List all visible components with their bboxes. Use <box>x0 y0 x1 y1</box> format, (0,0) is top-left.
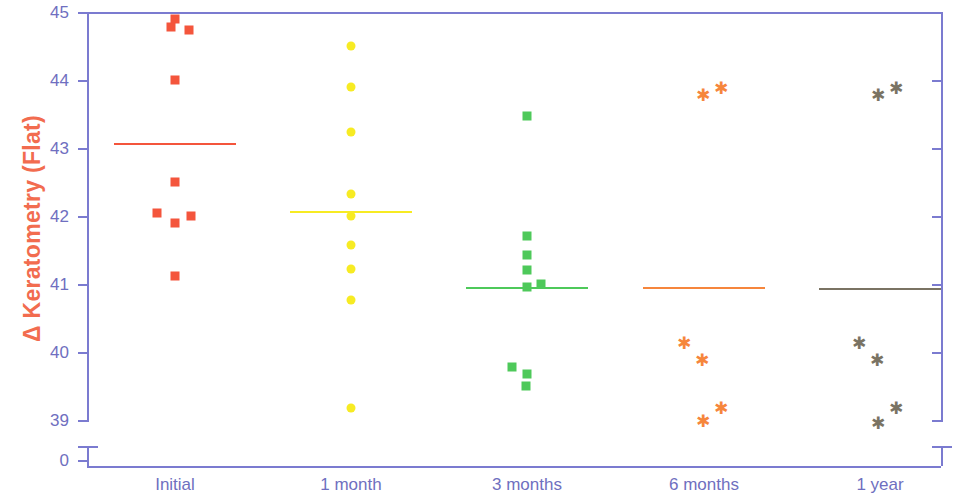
data-point-6-months-3: ✱ <box>695 353 709 370</box>
data-point-Initial-2 <box>185 26 194 35</box>
data-point-3-months-4 <box>537 280 546 289</box>
data-point-3-months-3 <box>523 265 532 274</box>
data-point-1-year-1: ✱ <box>889 81 903 98</box>
y-axis-break-stub-right-cap <box>932 446 952 448</box>
y-tick-40 <box>78 352 89 354</box>
data-point-6-months-1: ✱ <box>714 81 728 98</box>
data-point-1-year-4: ✱ <box>889 400 903 417</box>
y-tick-label-40: 40 <box>33 343 69 363</box>
y-tick-right-39 <box>932 420 943 422</box>
data-point-3-months-1 <box>523 232 532 241</box>
data-point-1-month-3 <box>347 190 356 199</box>
y-tick-39 <box>78 420 89 422</box>
mean-line-6-months <box>643 287 765 289</box>
data-point-Initial-7 <box>187 212 196 221</box>
data-point-1-month-0 <box>347 42 356 51</box>
data-point-3-months-8 <box>522 382 531 391</box>
y-tick-label-0: 0 <box>33 451 69 471</box>
data-point-3-months-6 <box>508 362 517 371</box>
x-tick-label-Initial: Initial <box>155 475 195 495</box>
data-point-1-month-7 <box>347 295 356 304</box>
y-tick-right-41 <box>932 284 943 286</box>
data-point-3-months-2 <box>523 251 532 260</box>
data-point-3-months-5 <box>523 283 532 292</box>
x-tick-label-1-month: 1 month <box>320 475 381 495</box>
plot-bottom-border <box>87 466 941 468</box>
data-point-1-month-6 <box>347 265 356 274</box>
data-point-1-month-2 <box>347 128 356 137</box>
data-point-6-months-5: ✱ <box>696 414 710 431</box>
y-axis-label: Δ Keratometry (Flat) <box>19 79 46 379</box>
y-axis-break-stub-left <box>87 446 89 466</box>
y-tick-right-42 <box>932 216 943 218</box>
data-point-6-months-4: ✱ <box>714 400 728 417</box>
y-tick-label-44: 44 <box>33 71 69 91</box>
data-point-1-month-5 <box>347 240 356 249</box>
data-point-1-month-1 <box>347 82 356 91</box>
y-tick-label-43: 43 <box>33 139 69 159</box>
y-tick-label-42: 42 <box>33 207 69 227</box>
y-tick-right-40 <box>932 352 943 354</box>
data-point-Initial-5 <box>153 209 162 218</box>
y-tick-label-41: 41 <box>33 275 69 295</box>
y-tick-right-43 <box>932 148 943 150</box>
keratometry-scatter-chart: Δ Keratometry (Flat) 454443424140390Init… <box>0 0 961 501</box>
x-tick-label-6-months: 6 months <box>669 475 739 495</box>
y-tick-45 <box>78 12 89 14</box>
data-point-1-year-0: ✱ <box>871 87 885 104</box>
plot-top-border <box>87 12 941 14</box>
y-axis-break-stub-right <box>941 446 943 466</box>
data-point-3-months-0 <box>523 112 532 121</box>
y-tick-right-45 <box>932 12 943 14</box>
data-point-Initial-6 <box>171 218 180 227</box>
data-point-1-year-2: ✱ <box>852 336 866 353</box>
y-tick-0 <box>78 460 89 462</box>
data-point-Initial-4 <box>171 178 180 187</box>
y-tick-43 <box>78 148 89 150</box>
y-tick-right-44 <box>932 80 943 82</box>
data-point-6-months-0: ✱ <box>696 87 710 104</box>
y-tick-44 <box>78 80 89 82</box>
data-point-3-months-7 <box>523 369 532 378</box>
x-tick-label-1-year: 1 year <box>856 475 903 495</box>
y-tick-42 <box>78 216 89 218</box>
data-point-Initial-3 <box>171 76 180 85</box>
data-point-1-month-4 <box>347 212 356 221</box>
data-point-1-month-8 <box>347 403 356 412</box>
mean-line-Initial <box>114 143 236 145</box>
data-point-Initial-1 <box>167 22 176 31</box>
x-tick-label-3-months: 3 months <box>492 475 562 495</box>
y-tick-label-39: 39 <box>33 411 69 431</box>
data-point-6-months-2: ✱ <box>677 336 691 353</box>
data-point-1-year-5: ✱ <box>871 415 885 432</box>
y-tick-label-45: 45 <box>33 3 69 23</box>
mean-line-1-year <box>819 288 941 290</box>
y-tick-41 <box>78 284 89 286</box>
data-point-1-year-3: ✱ <box>870 353 884 370</box>
data-point-Initial-8 <box>171 271 180 280</box>
y-axis-break-stub-left-cap <box>78 446 98 448</box>
